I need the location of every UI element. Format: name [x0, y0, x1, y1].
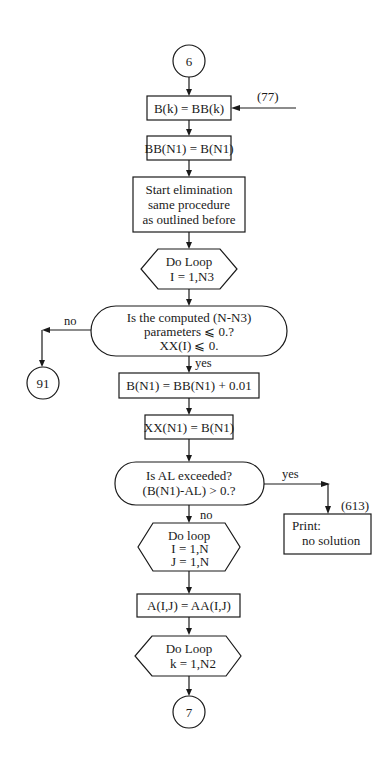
output-print-line2: no solution [302, 533, 361, 548]
edge-label-yes: yes [195, 356, 212, 370]
decision-parameters-line1: Is the computed (N-N3) [127, 310, 252, 325]
output-print-line1: Print: [292, 518, 321, 533]
connector-end-label: 7 [186, 705, 193, 720]
process-assign-xx-label: XX(N1) = B(N1) [144, 420, 234, 435]
decision-parameters-line3: XX(I) ⩽ 0. [159, 338, 218, 353]
loop-i-n3-line2: I = 1,N3 [170, 269, 214, 284]
arrowhead [186, 170, 192, 177]
loop-k-n2-line1: Do Loop [166, 641, 213, 656]
arrowhead [42, 327, 50, 333]
arrowhead [186, 516, 192, 523]
arrowhead [186, 242, 192, 249]
arrowhead [186, 455, 192, 462]
edge-label-no: no [64, 314, 77, 328]
connector-91-label: 91 [37, 376, 50, 391]
arrowhead [321, 481, 330, 487]
process-assign-a-label: A(I,J) = AA(I,J) [147, 598, 231, 613]
arrowhead [186, 89, 192, 96]
process-elimination-line2: same procedure [148, 197, 230, 212]
decision-parameters-line2: parameters ⩽ 0.? [144, 324, 234, 339]
loop-i-j-line3: J = 1,N [171, 554, 210, 569]
arrowhead [325, 506, 331, 514]
arrowhead [186, 628, 192, 635]
process-assign-b-label: B(k) = BB(k) [154, 101, 224, 116]
arrowhead [186, 129, 192, 136]
process-assign-bb-label: BB(N1) = B(N1) [145, 141, 234, 156]
edge-label-yes-2: yes [282, 467, 299, 481]
entry-label: (77) [257, 89, 279, 104]
connector-start-label: 6 [186, 54, 193, 69]
edge-label-no-2: no [200, 508, 213, 522]
process-elimination-line1: Start elimination [145, 182, 233, 197]
arrowhead [231, 105, 240, 111]
process-increment-label: B(N1) = BB(N1) + 0.01 [126, 378, 252, 393]
arrowhead [186, 689, 192, 696]
flowchart: 6 B(k) = BB(k) (77) BB(N1) = B(N1) Start… [0, 0, 390, 766]
print-box-label: (613) [341, 498, 369, 513]
process-elimination-line3: as outlined before [142, 212, 235, 227]
arrowhead [186, 299, 192, 306]
arrowhead [186, 408, 192, 415]
decision-al-exceeded-line1: Is AL exceeded? [146, 468, 232, 483]
loop-i-n3-line1: Do Loop [166, 254, 213, 269]
arrowhead [186, 366, 192, 373]
decision-al-exceeded-line2: (B(N1)-AL) > 0.? [143, 483, 236, 498]
arrowhead [39, 360, 45, 367]
arrowhead [186, 587, 192, 594]
loop-k-n2-line2: k = 1,N2 [170, 656, 216, 671]
